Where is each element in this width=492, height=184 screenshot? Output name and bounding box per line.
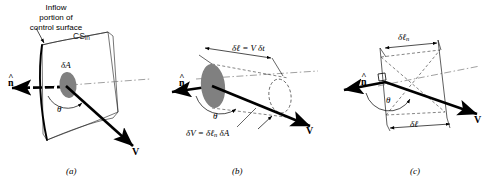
delta-l-extension-left — [199, 55, 212, 64]
delta-ln-dimension-line — [385, 43, 437, 48]
delta-volume-rhs: δA — [217, 128, 229, 138]
panel-c-dashed-top — [381, 50, 440, 57]
inflow-label-line2: portion of — [16, 13, 96, 22]
control-surface-left-edge — [40, 45, 47, 140]
panel-c-dashed-bottom — [386, 112, 445, 115]
panel-b-velocity-vector-arrow — [212, 86, 310, 126]
delta-l-extension-right — [272, 58, 283, 76]
panel-a-normal-label: ^n — [8, 77, 14, 89]
panel-a-velocity-label: V — [132, 146, 139, 158]
panel-c-centerline-axis — [378, 66, 480, 86]
control-surface-right-edge — [108, 32, 118, 112]
delta-ln-subscript: n — [406, 35, 409, 42]
delta-volume-equation: δV = δℓn δA — [186, 128, 229, 138]
normal-vector-arrow — [12, 87, 66, 88]
panel-c-velocity-label: V — [474, 114, 481, 126]
inflow-label-line1: Inflow — [16, 3, 96, 12]
delta-l-ext-right-c — [447, 118, 450, 128]
panel-c-normal-label: ^n — [361, 76, 367, 88]
panel-c-plane-left — [380, 48, 387, 125]
panel-c-plane-right — [438, 40, 447, 118]
panel-c-normal-hat: ^ — [361, 71, 367, 81]
velocity-vector-arrow — [66, 86, 133, 146]
panel-b-caption: (b) — [232, 166, 243, 176]
theta-angle-arc — [48, 96, 82, 108]
panel-b-normal-hat: ^ — [179, 72, 185, 82]
delta-l-equation: δℓ = V δt — [232, 43, 265, 53]
panel-c-caption: (c) — [410, 166, 420, 176]
delta-volume-leader — [258, 116, 272, 129]
cs-in-base: CS — [73, 31, 85, 41]
panel-b-velocity-label: V — [306, 125, 313, 137]
delta-l-equation-lhs: δℓ — [232, 43, 240, 53]
inflow-label-line3: control surface — [4, 23, 108, 32]
panel-a-normal-hat: ^ — [8, 72, 14, 82]
delta-l-ext-left-c — [387, 125, 390, 131]
right-angle-marker — [378, 73, 386, 81]
delta-l-dimension-line-c — [390, 124, 450, 128]
panel-a-caption: (a) — [66, 166, 77, 176]
delta-volume-leader-2 — [237, 108, 256, 127]
delta-volume-mid: = δℓ — [196, 128, 215, 138]
cs-in-label: CSin — [73, 32, 90, 42]
figure-container: Inflow portion of control surface CSin δ… — [0, 0, 492, 184]
delta-l-label-c: δℓ — [410, 119, 418, 129]
delta-area-label: δA — [61, 60, 71, 70]
delta-volume-lhs: δV — [186, 128, 196, 138]
delta-ln-label: δℓn — [398, 32, 409, 42]
panel-b-drawing — [172, 48, 318, 129]
panel-b-normal-label: ^n — [179, 77, 185, 89]
cs-in-subscript: in — [85, 34, 90, 41]
panel-b-theta-label: θ — [213, 111, 217, 121]
panel-c-theta-label: θ — [386, 95, 390, 105]
panel-a-theta-label: θ — [57, 104, 61, 114]
panel-a-drawing — [12, 28, 150, 146]
delta-l-equation-rhs: = V δt — [240, 43, 265, 53]
delta-ln-base: δℓ — [398, 32, 406, 42]
